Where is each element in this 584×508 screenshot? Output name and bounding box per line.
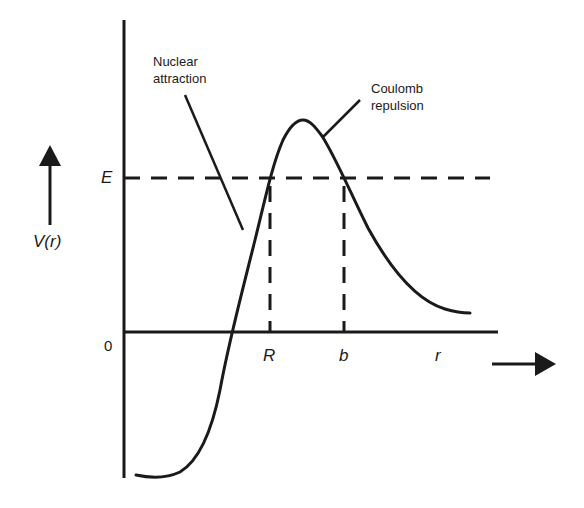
up-arrow-icon bbox=[39, 145, 61, 225]
origin-label: 0 bbox=[104, 337, 112, 354]
turning-point-b-label: b bbox=[339, 346, 348, 366]
potential-energy-diagram: Nuclear attraction Coulomb repulsion E V… bbox=[0, 0, 584, 508]
nuclear-attraction-label-line2: attraction bbox=[153, 70, 206, 87]
diagram-canvas bbox=[0, 0, 584, 508]
nuclear-attraction-pointer bbox=[185, 95, 243, 230]
turning-point-R-label: R bbox=[263, 346, 275, 366]
right-arrow-icon bbox=[492, 352, 556, 376]
y-axis-label: V(r) bbox=[33, 232, 61, 252]
potential-curve bbox=[136, 120, 470, 477]
coulomb-repulsion-label-line1: Coulomb bbox=[371, 80, 423, 97]
coulomb-repulsion-pointer bbox=[322, 100, 360, 138]
energy-label: E bbox=[101, 168, 112, 188]
nuclear-attraction-label-line1: Nuclear bbox=[153, 53, 198, 70]
coulomb-repulsion-label-line2: repulsion bbox=[371, 97, 424, 114]
x-axis-label: r bbox=[435, 346, 441, 366]
